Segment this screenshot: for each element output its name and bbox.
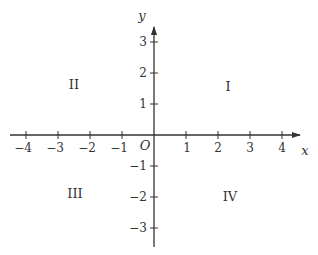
quadrant-3-label: III (67, 186, 82, 201)
x-tick-label: 2 (214, 141, 222, 155)
quadrant-4-label: IV (223, 189, 238, 204)
y-tick-label: −1 (129, 159, 147, 173)
y-tick-label: −3 (129, 221, 147, 235)
x-tick-label: −4 (14, 141, 32, 155)
quadrant-1-label: I (225, 79, 230, 94)
x-tick-label: 4 (278, 141, 286, 155)
quadrant-2-label: II (69, 77, 79, 92)
y-tick-label: 1 (139, 97, 147, 111)
x-tick-label: −2 (78, 141, 96, 155)
y-tick-label: 2 (139, 66, 147, 80)
coordinate-plane: −4 −3 −2 −1 1 2 3 4 3 2 1 −1 −2 −3 O x y… (0, 0, 318, 255)
x-tick-label: −3 (46, 141, 64, 155)
y-axis-label: y (137, 8, 146, 23)
x-tick-label: 3 (246, 141, 254, 155)
x-tick-label: −1 (110, 141, 128, 155)
y-tick-label: −2 (129, 190, 147, 204)
x-axis-label: x (301, 143, 309, 158)
x-tick-label: 1 (183, 141, 191, 155)
y-tick-label: 3 (139, 35, 147, 49)
origin-label: O (140, 138, 151, 153)
